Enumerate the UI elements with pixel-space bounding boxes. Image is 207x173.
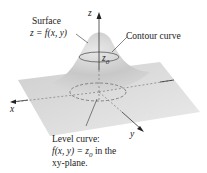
z0-label: z0 <box>102 53 109 68</box>
surface-equation: z = f(x, y) <box>30 28 67 39</box>
contour-curve-label: Contour curve <box>126 31 181 42</box>
y-axis-label: y <box>130 129 134 140</box>
y-axis-arrow <box>137 126 144 132</box>
level-curve-label-3: xy-plane. <box>52 158 88 169</box>
z-axis-label: z <box>88 8 92 19</box>
surface-title: Surface <box>32 16 61 27</box>
level-curve-label-1: Level curve: <box>52 134 100 145</box>
z-axis-arrow <box>97 12 102 19</box>
x-axis-label: x <box>10 104 14 115</box>
